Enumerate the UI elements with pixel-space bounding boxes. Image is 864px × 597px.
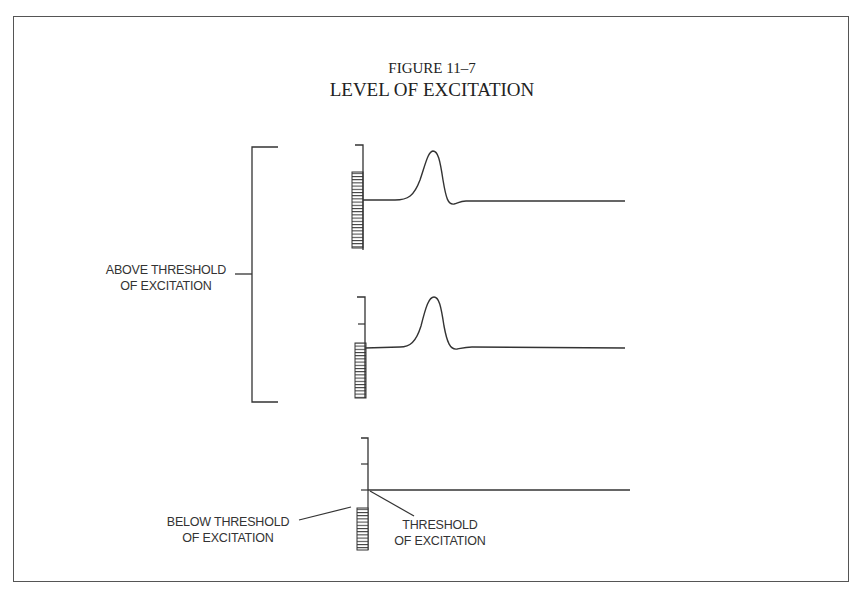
action-potential-trace	[365, 297, 625, 349]
above-threshold-label: ABOVE THRESHOLD OF EXCITATION	[100, 262, 232, 294]
panel-above-threshold-1	[352, 145, 625, 250]
excitation-diagram	[0, 0, 864, 597]
above-threshold-bracket	[235, 147, 278, 402]
threshold-pointer	[370, 491, 414, 516]
below-threshold-label: BELOW THRESHOLD OF EXCITATION	[158, 514, 298, 546]
threshold-label: THRESHOLD OF EXCITATION	[385, 517, 495, 549]
below-threshold-pointer	[299, 507, 351, 520]
action-potential-trace	[363, 151, 625, 204]
panel-above-threshold-2	[355, 297, 625, 398]
stimulus-bar-large	[352, 172, 363, 248]
stimulus-bar-small	[357, 508, 368, 550]
